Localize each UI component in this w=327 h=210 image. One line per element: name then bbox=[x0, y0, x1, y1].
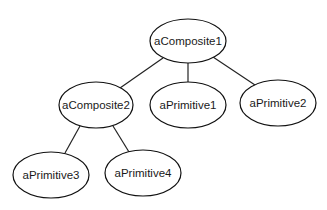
node-label: aPrimitive2 bbox=[250, 97, 307, 109]
node-aPrimitive3: aPrimitive3 bbox=[13, 152, 89, 198]
edge-aComposite1-aComposite2 bbox=[120, 58, 163, 88]
node-aComposite2: aComposite2 bbox=[59, 82, 133, 128]
edge-aComposite2-aPrimitive4 bbox=[113, 126, 129, 152]
node-label: aComposite1 bbox=[154, 35, 222, 47]
node-aPrimitive2: aPrimitive2 bbox=[240, 80, 316, 126]
node-aComposite1: aComposite1 bbox=[150, 19, 226, 63]
node-aPrimitive1: aPrimitive1 bbox=[150, 82, 226, 128]
node-label: aPrimitive4 bbox=[115, 167, 172, 179]
node-label: aComposite2 bbox=[62, 99, 130, 111]
edge-aComposite1-aPrimitive2 bbox=[213, 57, 255, 85]
node-label: aPrimitive3 bbox=[23, 169, 80, 181]
node-aPrimitive4: aPrimitive4 bbox=[105, 150, 181, 196]
edge-aComposite2-aPrimitive3 bbox=[65, 126, 80, 153]
node-label: aPrimitive1 bbox=[160, 99, 217, 111]
object-tree-diagram: aComposite1aComposite2aPrimitive1aPrimit… bbox=[0, 0, 327, 210]
